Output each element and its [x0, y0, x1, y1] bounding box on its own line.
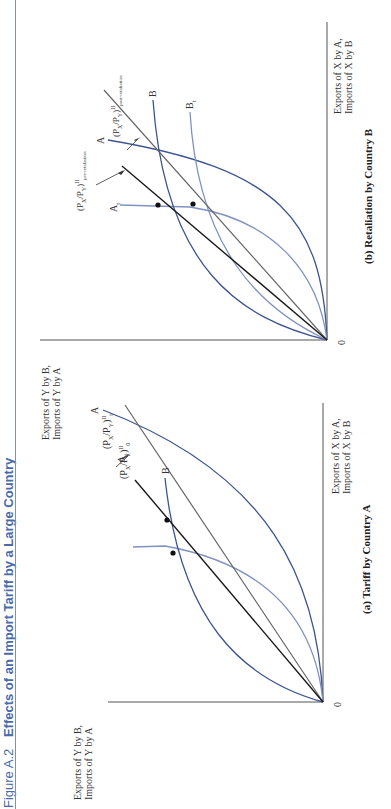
panel-b-label-B: B	[147, 90, 158, 97]
panel-b-arrow-between	[127, 139, 138, 150]
panel-b-label-At: At	[108, 203, 124, 212]
panel-b-price-line-post	[104, 90, 327, 340]
panel-b-curve-A	[108, 140, 327, 340]
panel-a-price-line-0	[135, 480, 323, 702]
panel-a-curve-At	[133, 546, 323, 702]
panel-a-label-price-t: (PX/PY)IIt	[99, 414, 117, 449]
panel-a-tariff-equilibrium-dot	[170, 550, 175, 555]
panel-b-curve-B	[153, 100, 327, 340]
panel-a-x-axis-label: Exports of X by A, Imports of X by B	[330, 418, 352, 494]
panel-a-label-A: A	[89, 407, 100, 414]
panel-b-equilibrium-dot	[155, 202, 160, 207]
panel-b-label-price-pre: (PX/PY)IIpre-retaliation	[72, 151, 90, 211]
panel-b-x-axis-label: Exports of X by A, Imports of X by B	[332, 38, 354, 114]
figure-canvas: Figure A.2 Effects of an Import Tariff b…	[0, 0, 391, 809]
panel-b-arrowhead-2-icon	[134, 137, 141, 141]
panel-b-arrowhead-icon	[118, 170, 125, 175]
panel-b-label-price-post: (PX/PY)IIpost-retaliation	[108, 76, 126, 138]
panel-a-curve-A	[103, 410, 323, 702]
panel-b-retaliation-equilibrium-dot	[190, 201, 195, 206]
panel-b-origin-label: 0	[336, 340, 347, 345]
panel-a-caption: (a) Tariff by Country A	[360, 505, 372, 614]
panel-a-price-line-t	[125, 405, 323, 702]
panel-a-equilibrium-dot	[164, 517, 169, 522]
panel-a-label-B: B	[160, 467, 171, 474]
panel-a-label-price-0: (PX/PY)II0	[116, 443, 134, 479]
panel-b-label-Bt: Bt	[184, 100, 200, 109]
panel-a-curve-B	[165, 478, 323, 702]
panel-b-price-line-pre	[122, 166, 327, 340]
panel-b-label-A: A	[95, 137, 106, 144]
panel-a-origin-label: 0	[332, 702, 343, 707]
panel-b-curve-Bt	[190, 112, 327, 340]
panel-b-y-axis-label: Exports of Y by B, Imports of Y by A	[40, 365, 62, 440]
panel-a-y-axis-label: Exports of Y by B, Imports of Y by A	[72, 725, 94, 800]
panel-b-curve-At	[120, 205, 327, 340]
panel-b-caption: (b) Retaliation by Country B	[362, 129, 374, 264]
panel-a-graphics	[103, 403, 323, 702]
